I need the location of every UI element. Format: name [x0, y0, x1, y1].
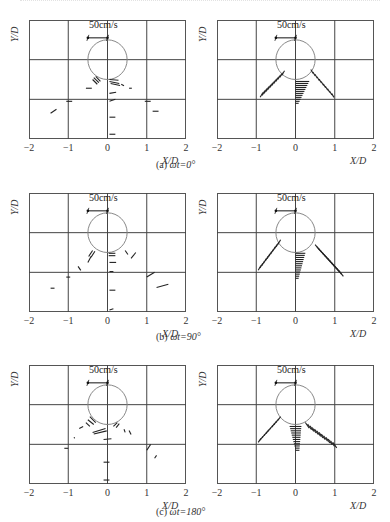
- x-tick-label: 1: [137, 142, 157, 153]
- x-tick-label: −2: [19, 315, 39, 326]
- velocity-vector: [78, 266, 81, 270]
- velocity-vector: [317, 77, 319, 81]
- velocity-vector: [104, 439, 112, 440]
- x-tick-label: 0: [98, 487, 118, 498]
- plot-area: [29, 193, 186, 312]
- x-tick-label: −1: [246, 315, 266, 326]
- velocity-vector: [147, 444, 151, 450]
- x-tick-label: 2: [364, 142, 384, 153]
- caption-tag: (b): [156, 331, 168, 342]
- x-tick-label: −2: [207, 315, 227, 326]
- cropped-text-line: [20, 0, 380, 4]
- x-tick-label: −2: [19, 487, 39, 498]
- plot-area: [217, 20, 374, 139]
- x-tick-label: 0: [286, 487, 306, 498]
- y-axis-label: Y/D: [9, 199, 20, 215]
- velocity-vector: [319, 79, 321, 83]
- velocity-vector: [323, 84, 325, 88]
- velocity-vector: [332, 93, 334, 97]
- x-tick-label: −1: [246, 142, 266, 153]
- velocity-vector: [315, 74, 317, 78]
- velocity-vector: [157, 284, 169, 287]
- x-axis-label: X/D: [350, 500, 366, 511]
- velocity-vector: [86, 423, 90, 427]
- x-axis-label: X/D: [350, 328, 366, 339]
- caption-phase: ωt=0°: [170, 159, 196, 170]
- velocity-vector: [51, 109, 57, 113]
- x-tick-label: 0: [98, 315, 118, 326]
- y-axis-label: Y/D: [197, 26, 208, 42]
- y-axis-label: Y/D: [197, 199, 208, 215]
- velocity-vector: [313, 72, 315, 76]
- x-tick-label: −2: [207, 142, 227, 153]
- velocity-vector: [147, 272, 155, 277]
- caption-a: (a) ωt=0°: [156, 159, 195, 170]
- x-tick-label: 0: [286, 315, 306, 326]
- velocity-vector: [109, 92, 116, 93]
- velocity-vector: [109, 80, 118, 81]
- x-tick-label: 2: [176, 142, 196, 153]
- velocity-vector: [325, 86, 327, 90]
- caption-tag: (a): [156, 159, 167, 170]
- x-tick-label: 1: [325, 142, 345, 153]
- caption-tag: (c): [156, 506, 167, 517]
- x-tick-label: 1: [137, 315, 157, 326]
- x-tick-label: 2: [364, 487, 384, 498]
- velocity-vector: [125, 251, 128, 255]
- velocity-vector: [116, 424, 119, 428]
- x-tick-label: −2: [207, 487, 227, 498]
- velocity-vector: [88, 420, 94, 425]
- x-tick-label: 2: [176, 487, 196, 498]
- x-tick-label: 2: [364, 315, 384, 326]
- y-axis-label: Y/D: [9, 26, 20, 42]
- x-tick-label: 2: [176, 315, 196, 326]
- velocity-vector: [124, 429, 125, 432]
- x-tick-label: −1: [58, 487, 78, 498]
- plot-area: [217, 365, 374, 484]
- plot-area: [29, 365, 186, 484]
- velocity-vector: [131, 253, 136, 259]
- velocity-vector: [79, 426, 83, 428]
- velocity-vector: [330, 91, 332, 95]
- x-tick-label: 0: [98, 142, 118, 153]
- scale-bar-label: 50cm/s: [277, 19, 306, 30]
- caption-phase: ωt=90°: [170, 331, 201, 342]
- x-tick-label: −1: [246, 487, 266, 498]
- velocity-vector: [155, 455, 157, 458]
- velocity-vector: [339, 270, 344, 276]
- x-tick-label: 1: [137, 487, 157, 498]
- x-tick-label: −1: [58, 142, 78, 153]
- x-tick-label: 1: [325, 487, 345, 498]
- velocity-vector: [321, 81, 323, 85]
- caption-phase: ωt=180°: [170, 506, 206, 517]
- velocity-vector: [327, 89, 329, 93]
- x-tick-label: −1: [58, 315, 78, 326]
- scale-bar-label: 50cm/s: [277, 364, 306, 375]
- plot-area: [217, 193, 374, 312]
- plot-area: [29, 20, 186, 139]
- scale-bar-label: 50cm/s: [89, 364, 118, 375]
- x-tick-label: 1: [325, 315, 345, 326]
- caption-c: (c) ωt=180°: [156, 506, 205, 517]
- velocity-vector: [129, 430, 131, 434]
- x-axis-label: X/D: [350, 155, 366, 166]
- scale-bar-label: 50cm/s: [89, 192, 118, 203]
- y-axis-label: Y/D: [197, 371, 208, 387]
- caption-b: (b) ωt=90°: [156, 331, 201, 342]
- y-axis-label: Y/D: [9, 371, 20, 387]
- velocity-vector: [121, 84, 124, 86]
- x-tick-label: 0: [286, 142, 306, 153]
- scale-bar-label: 50cm/s: [277, 192, 306, 203]
- scale-bar-label: 50cm/s: [89, 19, 118, 30]
- velocity-vector: [109, 309, 113, 310]
- x-tick-label: −2: [19, 142, 39, 153]
- velocity-vector: [88, 256, 91, 262]
